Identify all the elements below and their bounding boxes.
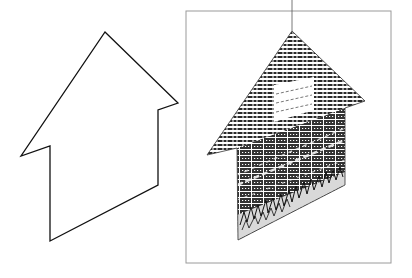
house-illustration (0, 0, 412, 278)
house-outline-shape (21, 32, 178, 241)
house-outline (21, 32, 178, 241)
textured-house-panel (186, 0, 391, 263)
